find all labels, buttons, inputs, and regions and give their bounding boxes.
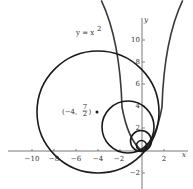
y-axis-label: y — [143, 16, 149, 24]
curve-label: y = x 2 — [75, 25, 101, 37]
point-label-prefix: (−4, — [62, 108, 77, 116]
x-tick-label: −2 — [114, 155, 124, 163]
y-tick-label: 10 — [131, 36, 140, 44]
x-tick-label: 2 — [162, 155, 166, 163]
x-tick-label: −6 — [71, 155, 82, 163]
center-point-label: (−4, 7 2 ) — [62, 103, 92, 118]
x-axis-label: x — [182, 151, 186, 159]
curve-label-exponent: 2 — [97, 25, 101, 33]
point-label-denominator: 2 — [83, 110, 87, 118]
y-tick-label: 6 — [136, 80, 141, 88]
y-tick-label: −2 — [130, 169, 140, 177]
curve-label-text: y = x — [75, 29, 94, 37]
parabola-circles-diagram: −10 −8 −6 −4 −2 2 10 8 6 4 2 −2 x y (−4,… — [0, 0, 193, 189]
center-point — [96, 111, 99, 114]
x-tick-label: −4 — [93, 155, 104, 163]
point-label-suffix: ) — [89, 108, 92, 116]
x-tick-label: −10 — [25, 155, 40, 163]
x-tick-label: −8 — [49, 155, 59, 163]
